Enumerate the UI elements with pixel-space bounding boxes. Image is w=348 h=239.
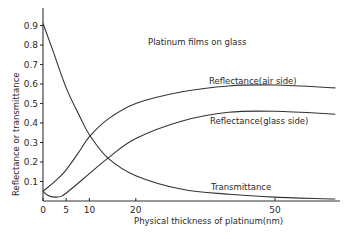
y-axis-label: Reflectance or transmittance [11,72,21,196]
y-ticks: 0.10.20.30.40.50.60.70.80.9 [24,21,43,187]
y-tick-label: 0.4 [24,118,39,128]
label-reflectance-air: Reflectance(air side) [209,76,297,86]
y-tick-label: 0.2 [24,157,38,167]
y-tick-label: 0.6 [24,79,39,89]
label-reflectance-glass: Reflectance(glass side) [210,116,308,126]
x-tick-label: 0 [40,205,46,215]
x-tick-label: 20 [130,205,142,215]
y-tick-label: 0.1 [24,177,38,187]
transmittance-curve [43,24,335,200]
x-tick-label: 5 [63,205,69,215]
x-tick-label: 10 [84,205,96,215]
y-tick-label: 0.3 [24,138,38,148]
x-tick-label: 50 [269,205,281,215]
x-axis-label: Physical thickness of platinum(nm) [134,216,283,226]
y-tick-label: 0.8 [24,40,39,50]
y-tick-label: 0.9 [24,21,39,31]
label-transmittance: Transmittance [210,182,271,192]
chart: 0.10.20.30.40.50.60.70.80.9 05102050 Pla… [0,0,348,239]
y-tick-label: 0.7 [24,60,38,70]
y-tick-label: 0.5 [24,99,38,109]
chart-title: Platinum films on glass [148,37,247,47]
